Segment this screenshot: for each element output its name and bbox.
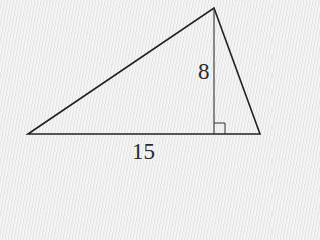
triangle-diagram: 8 15 bbox=[0, 0, 272, 173]
triangle-outline bbox=[28, 8, 260, 134]
base-label: 15 bbox=[132, 139, 155, 164]
right-angle-marker bbox=[214, 123, 225, 134]
height-label: 8 bbox=[198, 59, 210, 84]
